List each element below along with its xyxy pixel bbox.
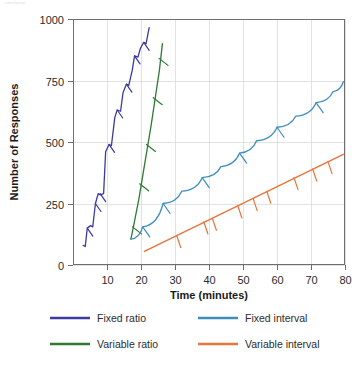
legend-item-fixed-interval[interactable]: Fixed interval	[198, 312, 307, 324]
legend-label: Variable interval	[245, 338, 320, 350]
plot-background	[73, 19, 345, 265]
legend-item-fixed-ratio[interactable]: Fixed ratio	[50, 312, 146, 324]
y-axis-title: Number of Responses	[8, 84, 20, 201]
x-tick-label: 30	[169, 274, 181, 286]
x-tick-label: 50	[237, 274, 249, 286]
y-axis: 02505007501000	[40, 14, 73, 272]
x-tick-label: 10	[101, 274, 113, 286]
faint-top-caption: cumulative	[4, 0, 25, 5]
y-tick-label: 250	[46, 199, 64, 211]
x-axis: 1020304050607080	[101, 265, 351, 286]
x-tick-label: 70	[305, 274, 317, 286]
x-tick-label: 20	[135, 274, 147, 286]
x-tick-label: 60	[271, 274, 283, 286]
legend-item-variable-interval[interactable]: Variable interval	[198, 338, 320, 350]
legend-label: Variable ratio	[97, 338, 158, 350]
x-axis-title: Time (minutes)	[170, 289, 248, 301]
y-tick-label: 750	[46, 76, 64, 88]
y-tick-label: 1000	[40, 14, 64, 26]
legend-label: Fixed interval	[245, 312, 307, 324]
y-tick-label: 500	[46, 137, 64, 149]
legend-label: Fixed ratio	[97, 312, 146, 324]
cumulative-response-chart-figure: cumulative 02505007501000 10203040506070…	[0, 0, 363, 366]
y-tick-label: 0	[58, 260, 64, 272]
chart-svg: 02505007501000 1020304050607080 Number o…	[0, 0, 363, 366]
x-tick-label: 40	[203, 274, 215, 286]
legend-item-variable-ratio[interactable]: Variable ratio	[50, 338, 158, 350]
x-tick-label: 80	[339, 274, 351, 286]
chart-legend: Fixed ratioFixed intervalVariable ratioV…	[50, 312, 320, 350]
